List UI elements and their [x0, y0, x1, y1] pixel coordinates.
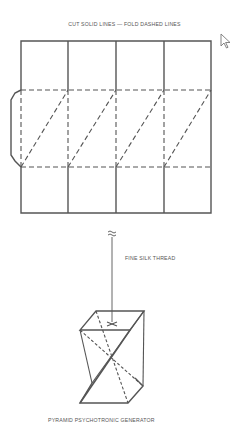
diagram-caption: PYRAMID PSYCHOTRONIC GENERATOR	[48, 417, 155, 423]
mouse-pointer-icon	[220, 33, 232, 53]
dashed-fold-lines	[21, 90, 211, 167]
silk-thread	[108, 231, 116, 322]
pyramid-generator-icon	[80, 311, 144, 403]
solid-cut-lines	[11, 41, 211, 213]
cut-fold-pattern	[11, 41, 211, 213]
diagram-canvas	[0, 0, 249, 436]
glue-tab	[11, 90, 21, 167]
thread-label: FINE SILK THREAD	[125, 255, 175, 261]
break-mark-icon	[108, 231, 116, 236]
